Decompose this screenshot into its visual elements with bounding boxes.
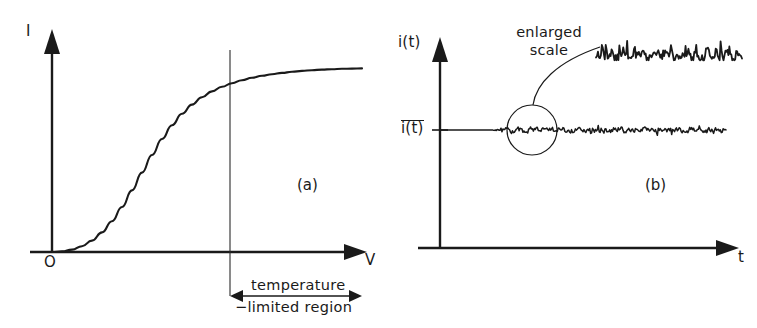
- panel-a-origin-label: O: [44, 254, 56, 271]
- temperature-limited-region-label-line2: −limited region: [235, 299, 352, 315]
- panel-b-y-axis-label: i(t): [398, 34, 421, 51]
- enlarged-scale-callout-line1: enlarged: [503, 24, 595, 40]
- panel-a-x-axis-arrowhead: [344, 244, 367, 260]
- panel-b-x-axis-label: t: [738, 249, 744, 266]
- panel-a-x-axis-label: V: [365, 252, 375, 269]
- panel-b-id-label: (b): [645, 177, 666, 194]
- temperature-limited-region-label-line1: temperature: [251, 277, 345, 293]
- enlarged-noise-trace: [596, 41, 742, 60]
- enlarged-scale-callout-line2: scale: [503, 42, 595, 58]
- panel-b-group: [418, 37, 742, 256]
- figure-root: I V O (a) temperature −limited region i(…: [0, 0, 757, 328]
- panel-b-x-axis-arrowhead: [716, 240, 739, 256]
- figure-linework: [0, 0, 757, 328]
- panel-a-y-axis-arrowhead: [44, 29, 60, 54]
- mean-current-label: i(t): [401, 120, 424, 137]
- panel-b-y-axis-arrowhead: [432, 37, 448, 62]
- iv-characteristic-curve: [52, 68, 362, 252]
- mean-current-label-text: i(t): [401, 120, 424, 137]
- panel-a-group: [30, 29, 367, 302]
- panel-a-y-axis-label: I: [26, 23, 31, 40]
- noise-trace: [440, 125, 726, 135]
- panel-a-id-label: (a): [297, 177, 318, 194]
